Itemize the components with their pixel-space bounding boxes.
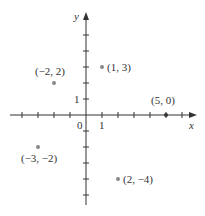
point-5-0: (5, 0) xyxy=(151,94,175,117)
point-1-3: (1, 3) xyxy=(100,61,131,74)
svg-text:(5, 0): (5, 0) xyxy=(151,94,175,107)
point-2-neg4: (2, −4) xyxy=(116,173,153,186)
svg-text:(2, −4): (2, −4) xyxy=(123,173,153,186)
point-neg2-2: (−2, 2) xyxy=(35,65,65,85)
svg-text:(1, 3): (1, 3) xyxy=(107,61,131,74)
svg-text:(−2, 2): (−2, 2) xyxy=(35,65,65,78)
x-axis-label: x xyxy=(188,119,194,131)
coordinate-plane: y x 0 1 1 (−2, 2) (1, 3) (5, 0) (−3, −2)… xyxy=(0,0,205,216)
x-tick-label-1: 1 xyxy=(99,119,105,131)
y-axis-arrow-icon xyxy=(83,12,89,20)
y-tick-label-1: 1 xyxy=(74,93,80,105)
y-axis-label: y xyxy=(73,10,79,22)
origin-label: 0 xyxy=(77,119,83,131)
point-neg3-neg2: (−3, −2) xyxy=(21,145,58,165)
x-axis-arrow-icon xyxy=(189,112,197,118)
svg-text:(−3, −2): (−3, −2) xyxy=(21,152,58,165)
